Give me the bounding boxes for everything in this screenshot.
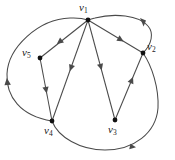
node-label-v1: v1 xyxy=(79,2,88,13)
node-dot-v5[interactable] xyxy=(38,56,43,61)
node-dot-v2[interactable] xyxy=(141,51,146,56)
edge-v1-to-v2 xyxy=(88,20,143,53)
node-label-v5-sub: 5 xyxy=(27,51,31,60)
node-label-v3-sub: 3 xyxy=(113,128,117,137)
node-dot-v4[interactable] xyxy=(50,119,55,124)
node-label-v4: v4 xyxy=(44,125,53,136)
arrowhead-v4-v1 xyxy=(4,78,11,86)
arrowhead-v4-v2 xyxy=(129,144,136,150)
node-label-v4-sub: 4 xyxy=(49,129,53,138)
node-label-v3: v3 xyxy=(108,124,117,135)
node-label-v2: v2 xyxy=(147,41,156,52)
arrowhead-v1-v3 xyxy=(97,63,105,71)
arrowhead-v3-v2 xyxy=(128,76,136,84)
node-dot-v3[interactable] xyxy=(113,118,118,123)
edge-v4-to-v1-curve xyxy=(7,18,88,121)
node-label-v1-sub: 1 xyxy=(84,6,88,15)
arrowhead-v1-v4 xyxy=(67,64,75,72)
arrowhead-v1-v2 xyxy=(116,35,125,44)
graph-canvas xyxy=(0,0,175,160)
edge-v4-to-v2-curve xyxy=(52,53,158,150)
directed-graph-figure: v1 v2 v3 v4 v5 xyxy=(0,0,175,160)
node-label-v2-sub: 2 xyxy=(152,45,156,54)
node-label-v5: v5 xyxy=(22,47,31,58)
arrowhead-v2-v1 xyxy=(140,18,146,27)
node-dot-v1[interactable] xyxy=(86,18,91,23)
edge-v3-to-v2 xyxy=(115,53,143,120)
